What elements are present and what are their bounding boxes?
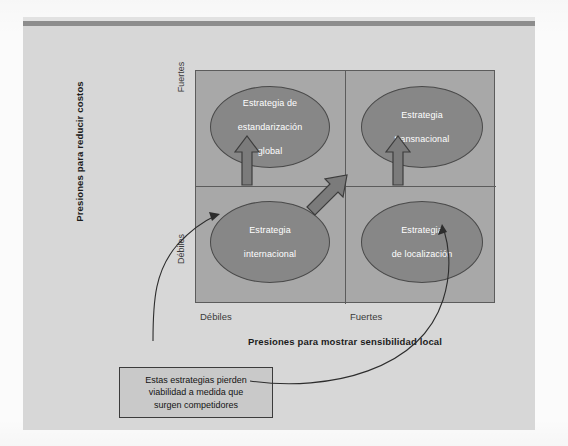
callout-box[interactable]: Estas estrategias pierden viabilidad a m… (119, 367, 273, 418)
quadrant-transnational-line2: transnacional (389, 133, 456, 145)
quadrant-transnational-line1: Estrategia (389, 109, 456, 121)
quadrant-global-line2: estandarización (232, 121, 309, 133)
figure-panel: Presiones para reducir costos Fuertes Dé… (23, 26, 535, 430)
y-axis-tick-low: Débiles (176, 219, 186, 279)
matrix-horizontal-divider (196, 186, 496, 187)
y-axis-tick-high: Fuertes (176, 47, 186, 107)
quadrant-global-standardization[interactable]: Estrategia de estandarización global (210, 86, 330, 168)
figure-page: Presiones para reducir costos Fuertes Dé… (0, 0, 568, 446)
callout-line2: viabilidad a medida que (149, 387, 244, 397)
x-axis-title: Presiones para mostrar sensibilidad loca… (195, 336, 495, 347)
x-axis-tick-high: Fuertes (350, 311, 382, 322)
quadrant-localization-line1: Estrategia (386, 224, 459, 236)
quadrant-international[interactable]: Estrategia internacional (210, 201, 330, 283)
quadrant-localization-line2: de localización (386, 248, 459, 260)
quadrant-global-line3: global (232, 145, 309, 157)
callout-line1: Estas estrategias pierden (145, 375, 247, 385)
quadrant-localization[interactable]: Estrategia de localización (361, 201, 483, 283)
callout-line3: surgen competidores (154, 400, 238, 410)
y-axis-title: Presiones para reducir costos (74, 72, 85, 232)
quadrant-international-line2: internacional (238, 248, 302, 260)
quadrant-global-line1: Estrategia de (232, 97, 309, 109)
quadrant-international-line1: Estrategia (238, 224, 302, 236)
matrix-vertical-divider (345, 71, 346, 304)
x-axis-tick-low: Débiles (200, 311, 232, 322)
quadrant-transnational[interactable]: Estrategia transnacional (361, 86, 483, 168)
